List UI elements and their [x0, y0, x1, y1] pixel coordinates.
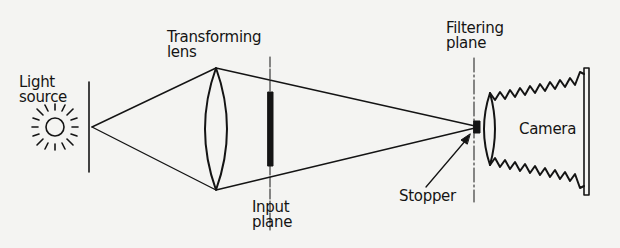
input-plane-label: Input plane — [252, 200, 292, 230]
input-plane-label-line2: plane — [252, 215, 292, 230]
stopper-arrow-icon — [426, 134, 470, 187]
camera-label-text: Camera — [519, 122, 576, 137]
light-rays — [92, 68, 475, 190]
light-source-label: Light source — [19, 75, 67, 105]
camera-label: Camera — [519, 122, 576, 137]
light-source-label-line2: source — [19, 90, 67, 105]
filtering-plane-label-line2: plane — [446, 36, 504, 51]
stopper-block-icon — [474, 121, 480, 133]
stopper-label: Stopper — [399, 189, 456, 204]
convex-lens-icon — [205, 68, 227, 190]
transforming-lens-label-line2: lens — [167, 45, 261, 60]
stopper-label-text: Stopper — [399, 189, 456, 204]
transforming-lens-label: Transforming lens — [167, 30, 261, 60]
sun-icon — [32, 104, 78, 150]
filtering-plane-label: Filtering plane — [446, 21, 504, 51]
